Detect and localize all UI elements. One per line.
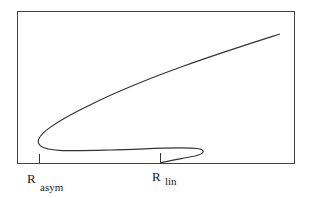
label-r-lin-sub: lin [165, 175, 177, 187]
label-r-lin-main: R [152, 169, 161, 184]
plot-frame [18, 12, 295, 164]
label-r-asym-sub: asym [40, 181, 64, 193]
label-r-asym-main: R [27, 171, 36, 186]
response-curve [38, 34, 280, 163]
diagram: R asym R lin [0, 0, 311, 198]
